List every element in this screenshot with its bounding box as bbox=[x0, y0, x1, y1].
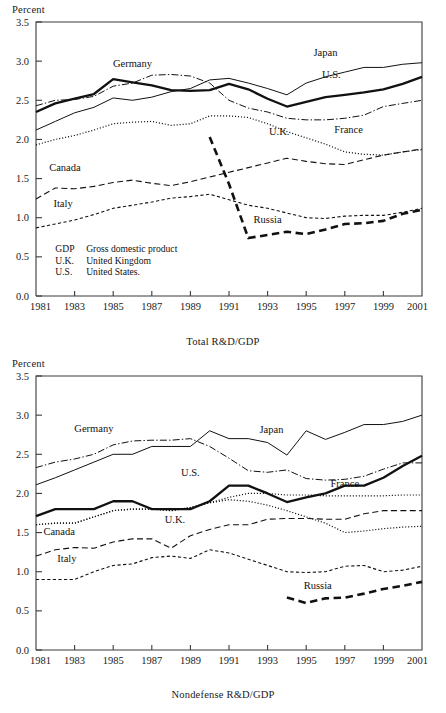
series-line-japan bbox=[36, 63, 422, 130]
y-tick-label: 1.0 bbox=[16, 566, 29, 577]
x-tick-label: 1993 bbox=[257, 655, 278, 666]
y-tick-label: 0.5 bbox=[16, 251, 29, 262]
x-tick-label: 1991 bbox=[219, 301, 240, 312]
x-tick-label: 1989 bbox=[180, 301, 201, 312]
x-tick-label: 1981 bbox=[30, 655, 51, 666]
y-tick-label: 1.0 bbox=[16, 212, 29, 223]
x-tick-label: 2001 bbox=[407, 301, 428, 312]
chart-svg-bottom: 0.00.51.01.52.02.53.03.51981198319851987… bbox=[0, 356, 446, 696]
series-line-italy bbox=[36, 194, 422, 228]
x-tick-label: 1987 bbox=[141, 655, 162, 666]
y-tick-label: 3.5 bbox=[16, 371, 29, 382]
plot-frame bbox=[36, 376, 422, 650]
x-tick-label: 1991 bbox=[219, 655, 240, 666]
legend-abbr: GDP bbox=[55, 243, 74, 254]
x-tick-label: 1983 bbox=[64, 655, 85, 666]
x-tick-label: 1987 bbox=[141, 301, 162, 312]
y-tick-label: 0.5 bbox=[16, 605, 29, 616]
x-tick-label: 1985 bbox=[103, 301, 124, 312]
series-label-russia: Russia bbox=[254, 214, 282, 225]
x-tick-label: 1985 bbox=[103, 655, 124, 666]
y-tick-label: 2.5 bbox=[16, 95, 29, 106]
series-label-us: U.S. bbox=[181, 467, 200, 478]
series-label-uk: U.K. bbox=[165, 514, 185, 525]
plot-area-bottom: 0.00.51.01.52.02.53.03.51981198319851987… bbox=[0, 356, 446, 712]
series-label-france: France bbox=[331, 478, 360, 489]
legend-abbr: U.K. bbox=[55, 255, 74, 266]
chart-svg-top: 0.00.51.01.52.02.53.03.51981198319851987… bbox=[0, 0, 446, 340]
legend-meaning: United Kingdom bbox=[86, 255, 151, 266]
legend-meaning: United States. bbox=[86, 266, 140, 277]
y-tick-label: 0.0 bbox=[16, 291, 29, 302]
series-label-us: U.S. bbox=[322, 69, 341, 80]
series-label-uk: U.K. bbox=[269, 126, 289, 137]
series-line-us bbox=[36, 456, 422, 516]
y-tick-label: 3.0 bbox=[16, 410, 29, 421]
series-label-canada: Canada bbox=[49, 162, 81, 173]
series-label-italy: Italy bbox=[53, 198, 73, 209]
series-line-russia bbox=[210, 137, 422, 238]
chart-nondefense-rd-gdp: Percent 0.00.51.01.52.02.53.03.519811983… bbox=[0, 356, 446, 712]
x-tick-label: 1997 bbox=[334, 655, 355, 666]
y-tick-label: 3.5 bbox=[16, 17, 29, 28]
y-tick-label: 2.5 bbox=[16, 449, 29, 460]
x-tick-label: 1999 bbox=[373, 301, 394, 312]
x-tick-label: 1999 bbox=[373, 655, 394, 666]
series-line-italy bbox=[36, 550, 422, 580]
series-line-germany bbox=[36, 74, 422, 119]
series-label-japan: Japan bbox=[259, 424, 284, 435]
series-label-france: France bbox=[334, 124, 363, 135]
x-tick-label: 1983 bbox=[64, 301, 85, 312]
x-axis-title-bottom: Nondefense R&D/GDP bbox=[0, 689, 446, 700]
chart-total-rd-gdp: Percent 0.00.51.01.52.02.53.03.519811983… bbox=[0, 0, 446, 356]
plot-area-top: 0.00.51.01.52.02.53.03.51981198319851987… bbox=[0, 0, 446, 356]
series-label-italy: Italy bbox=[57, 553, 77, 564]
series-line-uk bbox=[36, 500, 422, 533]
series-label-germany: Germany bbox=[113, 58, 153, 69]
series-line-uk bbox=[36, 116, 422, 155]
x-tick-label: 1995 bbox=[296, 655, 317, 666]
series-label-russia: Russia bbox=[304, 580, 332, 591]
series-label-canada: Canada bbox=[43, 526, 75, 537]
y-tick-label: 2.0 bbox=[16, 134, 29, 145]
x-tick-label: 1993 bbox=[257, 301, 278, 312]
y-tick-label: 3.0 bbox=[16, 56, 29, 67]
series-label-germany: Germany bbox=[74, 423, 114, 434]
series-label-japan: Japan bbox=[314, 47, 339, 58]
y-tick-label: 1.5 bbox=[16, 173, 29, 184]
y-tick-label: 1.5 bbox=[16, 527, 29, 538]
x-axis-title-top: Total R&D/GDP bbox=[0, 336, 446, 347]
series-line-germany bbox=[36, 439, 422, 480]
x-tick-label: 1997 bbox=[334, 301, 355, 312]
series-line-us bbox=[36, 77, 422, 112]
y-tick-label: 2.0 bbox=[16, 488, 29, 499]
series-line-canada bbox=[36, 149, 422, 199]
legend-meaning: Gross domestic product bbox=[86, 243, 177, 254]
x-tick-label: 1995 bbox=[296, 301, 317, 312]
x-tick-label: 1981 bbox=[30, 301, 51, 312]
x-tick-label: 1989 bbox=[180, 655, 201, 666]
y-tick-label: 0.0 bbox=[16, 645, 29, 656]
legend-abbr: U.S. bbox=[55, 266, 72, 277]
x-tick-label: 2001 bbox=[407, 655, 428, 666]
series-line-canada bbox=[36, 511, 422, 556]
